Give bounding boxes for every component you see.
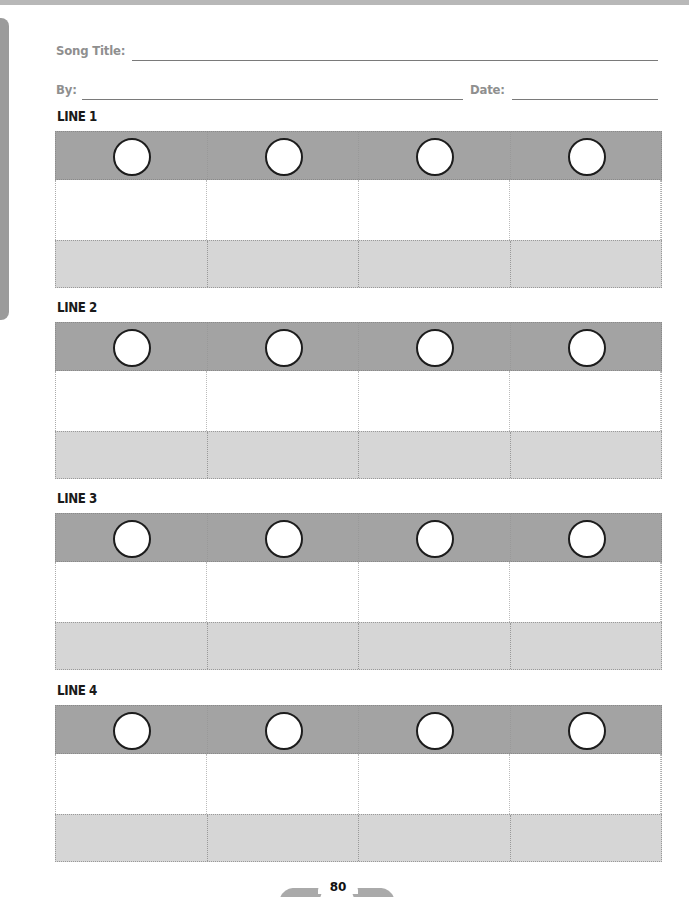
notes-cell[interactable] (208, 815, 360, 861)
line-4-grid (55, 705, 662, 862)
top-decorative-band (0, 0, 689, 5)
by-field[interactable] (82, 99, 463, 100)
chord-circle-icon[interactable] (568, 520, 606, 558)
notes-cell[interactable] (208, 623, 360, 669)
notes-cell[interactable] (359, 432, 511, 478)
chord-circle-icon[interactable] (568, 712, 606, 750)
lyric-row (55, 562, 662, 622)
line-2-label: LINE 2 (57, 299, 97, 315)
chord-circle-icon[interactable] (416, 138, 454, 176)
lyric-row (55, 371, 662, 431)
notes-cell[interactable] (511, 241, 662, 287)
lyric-row (55, 754, 662, 814)
chord-cell (56, 514, 208, 561)
chord-cell (359, 706, 511, 753)
lyric-cell[interactable] (510, 371, 661, 431)
chord-circle-icon[interactable] (568, 138, 606, 176)
notes-row (55, 814, 662, 862)
by-label: By: (56, 82, 77, 97)
chord-cell (359, 323, 511, 370)
chord-cell (208, 706, 360, 753)
line-2-grid (55, 322, 662, 479)
chord-circle-icon[interactable] (416, 329, 454, 367)
notes-cell[interactable] (208, 241, 360, 287)
lyric-cell[interactable] (510, 562, 661, 622)
chord-cell (208, 323, 360, 370)
chord-cell (359, 514, 511, 561)
lyric-cell[interactable] (207, 180, 358, 240)
notes-cell[interactable] (511, 815, 662, 861)
song-title-label: Song Title: (56, 43, 125, 58)
lyric-cell[interactable] (56, 180, 207, 240)
chord-circle-icon[interactable] (416, 520, 454, 558)
chord-cell (56, 323, 208, 370)
line-3-label: LINE 3 (57, 490, 97, 506)
notes-row (55, 622, 662, 670)
chord-cell (511, 323, 662, 370)
lyric-row (55, 180, 662, 240)
lyric-cell[interactable] (359, 562, 510, 622)
lyric-cell[interactable] (56, 371, 207, 431)
date-label: Date: (470, 82, 505, 97)
chord-cell (511, 706, 662, 753)
chord-cell (56, 132, 208, 179)
notes-cell[interactable] (359, 815, 511, 861)
chord-cell (511, 132, 662, 179)
notes-cell[interactable] (511, 623, 662, 669)
notes-cell[interactable] (56, 241, 208, 287)
chord-row (55, 705, 662, 754)
line-1-label: LINE 1 (57, 108, 97, 124)
line-1-grid (55, 131, 662, 288)
lyric-cell[interactable] (510, 754, 661, 814)
chord-circle-icon[interactable] (113, 329, 151, 367)
notes-cell[interactable] (56, 623, 208, 669)
date-field[interactable] (512, 99, 658, 100)
chord-row (55, 131, 662, 180)
chord-row (55, 322, 662, 371)
notes-cell[interactable] (511, 432, 662, 478)
chord-circle-icon[interactable] (113, 138, 151, 176)
line-4-label: LINE 4 (57, 682, 97, 698)
notes-cell[interactable] (56, 815, 208, 861)
lyric-cell[interactable] (56, 562, 207, 622)
lyric-cell[interactable] (207, 754, 358, 814)
chord-circle-icon[interactable] (265, 138, 303, 176)
chord-cell (511, 514, 662, 561)
chord-cell (359, 132, 511, 179)
notes-cell[interactable] (359, 623, 511, 669)
lyric-cell[interactable] (207, 371, 358, 431)
song-title-field[interactable] (132, 60, 658, 61)
chord-circle-icon[interactable] (265, 520, 303, 558)
lyric-cell[interactable] (56, 754, 207, 814)
lyric-cell[interactable] (510, 180, 661, 240)
notes-row (55, 240, 662, 288)
lyric-cell[interactable] (359, 180, 510, 240)
lyric-cell[interactable] (207, 562, 358, 622)
chord-cell (56, 706, 208, 753)
side-tab (0, 18, 9, 320)
page-number: 80 (318, 880, 358, 894)
notes-cell[interactable] (359, 241, 511, 287)
notes-cell[interactable] (56, 432, 208, 478)
chord-circle-icon[interactable] (113, 520, 151, 558)
chord-circle-icon[interactable] (265, 712, 303, 750)
notes-row (55, 431, 662, 479)
chord-cell (208, 132, 360, 179)
notes-cell[interactable] (208, 432, 360, 478)
chord-circle-icon[interactable] (265, 329, 303, 367)
line-3-grid (55, 513, 662, 670)
chord-cell (208, 514, 360, 561)
lyric-cell[interactable] (359, 754, 510, 814)
chord-circle-icon[interactable] (568, 329, 606, 367)
chord-circle-icon[interactable] (113, 712, 151, 750)
page-footer: 80 (0, 880, 689, 897)
lyric-cell[interactable] (359, 371, 510, 431)
chord-row (55, 513, 662, 562)
chord-circle-icon[interactable] (416, 712, 454, 750)
